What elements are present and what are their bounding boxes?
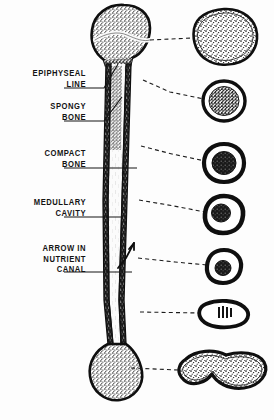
cross-section-5-medullary-cavity (215, 261, 231, 276)
distal-epiphysis-outline (90, 344, 143, 400)
cross-section-3-upper-diaphysis (204, 144, 244, 182)
connector-cross-section-1 (150, 38, 192, 40)
cross-section-2-metaphysis (203, 81, 245, 121)
cross-section-1-proximal-epiphysis (194, 9, 258, 65)
cross-section-2-spongy-core (209, 87, 239, 116)
cross-section-7-distal-epiphysis (179, 351, 266, 388)
cross-section-4-mid-diaphysis (205, 196, 243, 233)
cross-section-6-distal-metaphysis (199, 301, 248, 327)
label-arrow-in-nutrient-canal: ARROW IN NUTRIENT CANAL (14, 243, 86, 275)
cross-section-5-lower-diaphysis (207, 250, 241, 283)
proximal-epiphysis (92, 5, 150, 70)
label-compact-bone: COMPACT BONE (14, 148, 86, 169)
proximal-shaft-trabeculae (110, 66, 122, 150)
diaphysis (103, 64, 131, 344)
connector-cross-section-4 (139, 200, 205, 212)
long-bone-longitudinal-section (90, 5, 150, 400)
bone-anatomy-figure: EPIPHYSEAL LINE SPONGY BONE COMPACT BONE… (0, 0, 274, 420)
connector-cross-section-5 (138, 258, 207, 265)
label-spongy-bone: SPONGY BONE (14, 101, 86, 122)
connector-cross-section-2 (143, 80, 204, 99)
label-medullary-cavity: MEDULLARY CAVITY (14, 197, 86, 218)
label-epiphyseal-line: EPIPHYSEAL LINE (14, 68, 86, 89)
cross-section-connectors (131, 38, 207, 370)
connector-cross-section-6 (140, 312, 200, 313)
cross-section-1-cortex (194, 9, 258, 65)
cross-section-7-cortex (179, 351, 266, 388)
distal-epiphysis (90, 344, 143, 400)
connector-cross-section-3 (141, 146, 205, 161)
cross-section-3-medullary-cavity (212, 152, 236, 175)
cross-section-4-medullary-cavity (212, 204, 231, 222)
